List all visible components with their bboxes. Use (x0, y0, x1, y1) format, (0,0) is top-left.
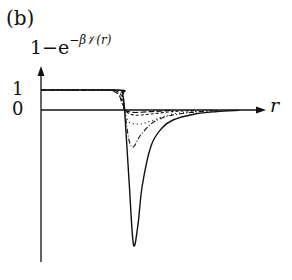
series-line-dotted (41, 90, 217, 124)
series-layer (41, 90, 239, 246)
plot-area (0, 0, 292, 280)
series-line-solid (41, 90, 239, 246)
y-axis-arrow-icon (38, 66, 45, 76)
series-line-longdash (41, 90, 173, 112)
series-line-dashdot (41, 90, 217, 147)
x-axis-arrow-icon (256, 107, 266, 114)
